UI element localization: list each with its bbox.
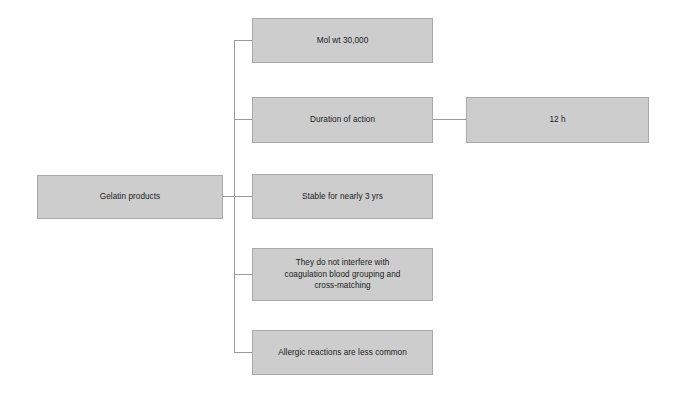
node-duration-value[interactable]: 12 h — [466, 97, 649, 143]
diagram-canvas: Gelatin products Mol wt 30,000 Duration … — [0, 0, 681, 395]
node-duration-value-label: 12 h — [473, 114, 642, 126]
node-no-interference[interactable]: They do not interfere with coagulation b… — [252, 248, 433, 301]
node-gelatin-products[interactable]: Gelatin products — [37, 175, 223, 219]
node-allergic-reactions[interactable]: Allergic reactions are less common — [252, 330, 433, 375]
node-gelatin-products-label: Gelatin products — [44, 191, 216, 203]
node-no-interference-label: They do not interfere with coagulation b… — [259, 257, 426, 293]
node-stable-for-nearly-3-yrs-label: Stable for nearly 3 yrs — [259, 191, 426, 203]
node-mol-wt-label: Mol wt 30,000 — [259, 35, 426, 47]
node-duration-of-action-label: Duration of action — [259, 114, 426, 126]
node-duration-of-action[interactable]: Duration of action — [252, 97, 433, 143]
node-stable-for-nearly-3-yrs[interactable]: Stable for nearly 3 yrs — [252, 174, 433, 219]
node-mol-wt[interactable]: Mol wt 30,000 — [252, 18, 433, 63]
node-allergic-reactions-label: Allergic reactions are less common — [259, 347, 426, 359]
